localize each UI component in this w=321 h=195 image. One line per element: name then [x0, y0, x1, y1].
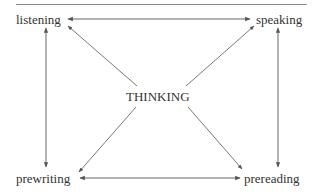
arrow-thinking-speaking — [186, 26, 254, 86]
node-prewriting: prewriting — [16, 171, 70, 186]
node-listening: listening — [16, 12, 61, 27]
node-thinking: THINKING — [126, 89, 190, 104]
arrow-thinking-prereading — [188, 107, 242, 169]
arrow-thinking-listening — [68, 26, 137, 86]
node-prereading: prereading — [244, 171, 300, 186]
node-speaking: speaking — [256, 12, 302, 27]
arrow-thinking-prewriting — [79, 107, 136, 172]
